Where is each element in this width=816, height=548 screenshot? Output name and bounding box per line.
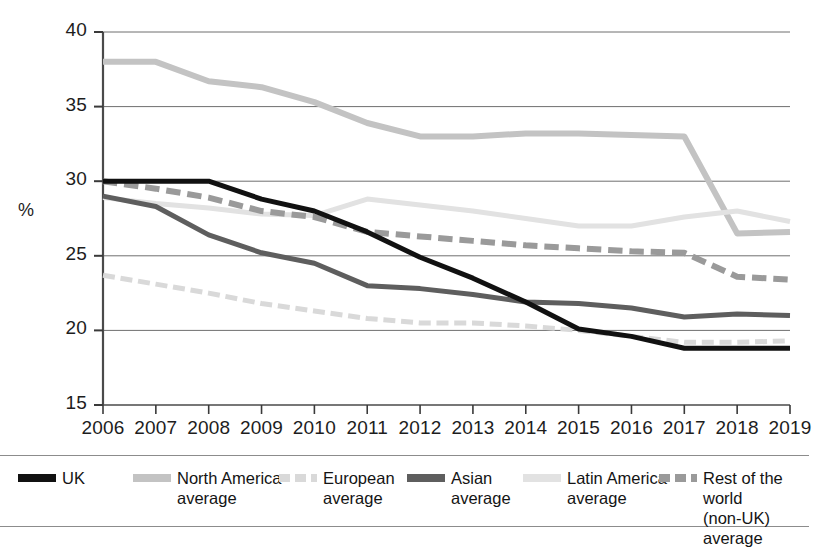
x-tick-label: 2010 — [284, 417, 344, 439]
legend-swatch-icon — [133, 474, 171, 482]
x-tick-label: 2018 — [707, 417, 767, 439]
legend-item-label: UK — [62, 468, 85, 488]
x-tick-label: 2012 — [390, 417, 450, 439]
legend-item[interactable]: North America average — [133, 468, 282, 508]
legend-swatch-icon — [18, 474, 56, 482]
legend-item[interactable]: UK — [18, 468, 85, 488]
legend-item-label: Latin America average — [567, 468, 667, 508]
legend-swatch-icon — [279, 474, 317, 482]
chart-legend: UKNorth America averageEuropean averageA… — [0, 455, 809, 527]
x-tick-label: 2009 — [232, 417, 292, 439]
y-tick-label: 15 — [25, 392, 87, 414]
x-tick-label: 2008 — [179, 417, 239, 439]
series-line — [103, 275, 790, 342]
legend-item[interactable]: Asian average — [407, 468, 511, 508]
x-tick-label: 2016 — [601, 417, 661, 439]
series-line — [103, 181, 790, 279]
series-line — [103, 198, 790, 226]
legend-item[interactable]: European average — [279, 468, 395, 508]
x-tick-label: 2019 — [760, 417, 816, 439]
y-tick-label: 35 — [25, 94, 87, 116]
y-tick-label: 20 — [25, 317, 87, 339]
x-tick-label: 2011 — [337, 417, 397, 439]
legend-item[interactable]: Rest of the world (non-UK) average — [659, 468, 809, 548]
y-tick-label: 25 — [25, 243, 87, 265]
legend-item[interactable]: Latin America average — [523, 468, 667, 508]
legend-swatch-icon — [659, 474, 697, 482]
x-tick-label: 2015 — [549, 417, 609, 439]
x-tick-label: 2013 — [443, 417, 503, 439]
legend-swatch-icon — [523, 474, 561, 482]
legend-item-label: North America average — [177, 468, 282, 508]
x-tick-label: 2006 — [73, 417, 133, 439]
y-axis-title: % — [18, 200, 34, 221]
x-tick-label: 2017 — [654, 417, 714, 439]
legend-item-label: Rest of the world (non-UK) average — [703, 468, 809, 548]
legend-item-label: European average — [323, 468, 395, 508]
y-tick-label: 40 — [25, 19, 87, 41]
y-tick-label: 30 — [25, 168, 87, 190]
legend-item-label: Asian average — [451, 468, 511, 508]
legend-swatch-icon — [407, 474, 445, 482]
x-tick-label: 2007 — [126, 417, 186, 439]
x-tick-label: 2014 — [496, 417, 556, 439]
